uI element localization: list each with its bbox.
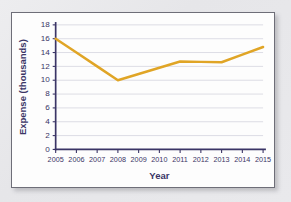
x-tick-label: 2014 [234, 155, 250, 164]
x-tick-label: 2006 [68, 155, 84, 164]
y-tick-label: 12 [41, 62, 51, 71]
x-tick-label: 2009 [131, 155, 147, 164]
x-tick-label: 2005 [48, 155, 64, 164]
expense-data-line [56, 39, 263, 81]
x-tick-label: 2012 [193, 155, 209, 164]
y-tick-label: 8 [45, 89, 50, 98]
y-tick-label: 18 [41, 20, 51, 29]
y-axis-title: Expense (thousands) [17, 39, 28, 135]
gridlines-group [56, 25, 263, 136]
line-chart: 024681012141618 200520062007200820092010… [12, 13, 274, 187]
y-tick-label: 4 [45, 117, 50, 126]
x-tick-label: 2007 [89, 155, 105, 164]
y-tick-label: 6 [45, 103, 50, 112]
x-tick-label: 2011 [172, 155, 188, 164]
y-tick-label: 14 [41, 48, 51, 57]
x-tick-label: 2015 [255, 155, 271, 164]
y-tick-label: 2 [45, 131, 50, 140]
y-tick-label: 10 [41, 75, 51, 84]
chart-figure-card: 024681012141618 200520062007200820092010… [11, 12, 275, 188]
x-tick-labels-group: 2005200620072008200920102011201220132014… [48, 155, 272, 164]
chart-plot-area: 024681012141618 200520062007200820092010… [12, 13, 274, 187]
y-tick-labels-group: 024681012141618 [41, 20, 51, 154]
x-tick-label: 2008 [110, 155, 126, 164]
y-tick-label: 0 [45, 145, 50, 154]
x-tick-label: 2010 [151, 155, 167, 164]
x-axis-title: Year [149, 170, 169, 181]
x-tick-label: 2013 [214, 155, 230, 164]
y-tick-label: 16 [41, 34, 51, 43]
